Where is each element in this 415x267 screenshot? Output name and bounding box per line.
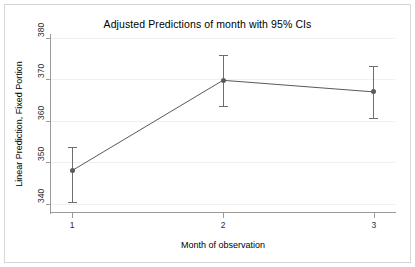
x-tick-mark [374, 213, 375, 218]
y-axis-title: Linear Prediction, Fixed Portion [14, 36, 26, 212]
plot-area: 340350360370380123 [51, 36, 395, 212]
x-tick-mark [223, 213, 224, 218]
x-axis-title: Month of observation [51, 240, 395, 250]
x-tick-label: 1 [62, 220, 82, 230]
prediction-line [72, 80, 374, 170]
x-tick-mark [72, 213, 73, 218]
series-line [51, 36, 395, 212]
chart-title: Adjusted Predictions of month with 95% C… [0, 18, 415, 30]
x-tick-label: 2 [213, 220, 233, 230]
chart-figure: Adjusted Predictions of month with 95% C… [0, 0, 415, 267]
x-tick-label: 3 [364, 220, 384, 230]
